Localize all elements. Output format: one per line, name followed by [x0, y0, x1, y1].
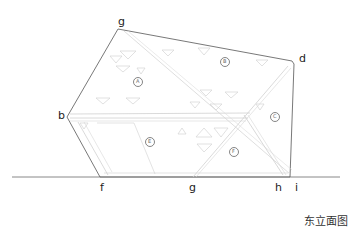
panel-label-f: F [232, 149, 235, 154]
vertex-label-b: b [58, 110, 65, 121]
vertex-label-d: d [299, 53, 306, 64]
vertex-label-f: f [100, 182, 104, 193]
panel-label-c: C [273, 114, 277, 119]
triangle-markings [80, 48, 268, 152]
vertex-label-g: g [189, 182, 196, 193]
outline-bf [67, 117, 100, 177]
panel-label-e: E [148, 139, 151, 144]
drawing-title: 东立面图 [304, 212, 348, 228]
vertex-label-a: g [118, 16, 125, 27]
elevation-drawing [0, 0, 357, 230]
panel-label-b: B [223, 59, 226, 64]
panel-label-a: A [136, 79, 139, 84]
building-outline [67, 29, 294, 177]
vertex-label-i: i [295, 182, 298, 193]
vertex-label-h: h [275, 182, 282, 193]
